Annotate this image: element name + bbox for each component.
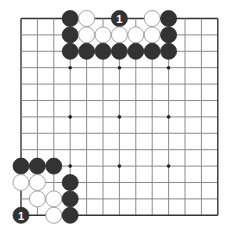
white-stone xyxy=(144,27,160,43)
white-stone xyxy=(79,27,95,43)
black-stone xyxy=(62,191,78,207)
black-stone xyxy=(111,43,127,59)
white-stone xyxy=(46,191,62,207)
white-stone xyxy=(29,175,45,191)
black-stone xyxy=(62,11,78,27)
black-stone xyxy=(144,43,160,59)
star-point xyxy=(167,66,171,70)
black-stone xyxy=(95,43,111,59)
go-board[interactable]: 11 xyxy=(0,0,230,236)
star-point xyxy=(68,164,72,168)
black-stone xyxy=(161,11,177,27)
star-point xyxy=(118,66,122,70)
black-stone: 1 xyxy=(111,11,127,27)
star-point xyxy=(167,164,171,168)
white-stone xyxy=(13,175,29,191)
white-stone xyxy=(111,27,127,43)
black-stone xyxy=(62,27,78,43)
black-stone xyxy=(62,43,78,59)
star-point xyxy=(167,115,171,119)
black-stone xyxy=(161,27,177,43)
white-stone xyxy=(95,27,111,43)
star-point xyxy=(68,115,72,119)
move-number-label: 1 xyxy=(18,210,24,222)
star-point xyxy=(118,164,122,168)
black-stone xyxy=(79,43,95,59)
black-stone xyxy=(161,43,177,59)
white-stone xyxy=(79,11,95,27)
black-stone xyxy=(46,158,62,174)
white-stone xyxy=(29,191,45,207)
star-point xyxy=(118,115,122,119)
black-stone xyxy=(62,207,78,223)
white-stone xyxy=(128,27,144,43)
white-stone xyxy=(144,11,160,27)
black-stone xyxy=(13,158,29,174)
star-point xyxy=(68,66,72,70)
black-stone: 1 xyxy=(13,207,29,223)
white-stone xyxy=(46,207,62,223)
black-stone xyxy=(29,158,45,174)
move-number-label: 1 xyxy=(116,13,122,25)
black-stone xyxy=(62,175,78,191)
black-stone xyxy=(128,43,144,59)
